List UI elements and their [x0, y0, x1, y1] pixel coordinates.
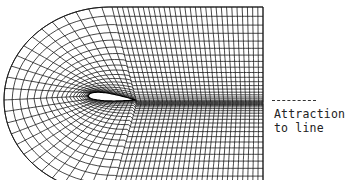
annotation-attraction: Attraction: [274, 108, 345, 121]
attraction-line-leader: [272, 100, 316, 101]
circumferential-grid-lines: [4, 7, 263, 180]
c-grid-diagram: [0, 0, 349, 180]
annotation-to-line: to line: [274, 122, 324, 135]
